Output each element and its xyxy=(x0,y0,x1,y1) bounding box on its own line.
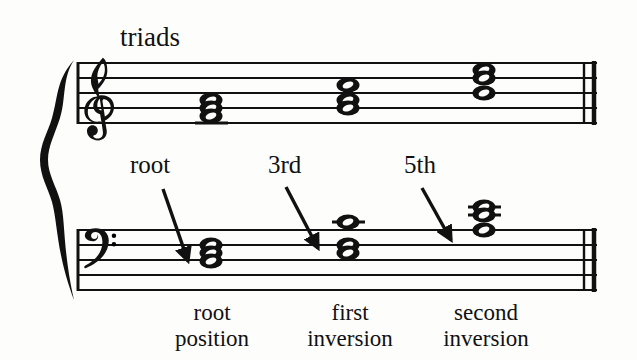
notehead xyxy=(337,100,360,115)
notehead xyxy=(337,77,360,92)
bass-staff xyxy=(77,229,597,291)
notehead xyxy=(473,70,496,85)
third-arrow xyxy=(286,187,318,248)
notehead xyxy=(473,85,496,100)
chord-root-position xyxy=(195,92,228,268)
bass-chord-1 xyxy=(200,237,223,268)
final-double-barline xyxy=(584,61,594,292)
grand-staff-brace xyxy=(40,60,74,300)
notehead xyxy=(473,207,496,222)
treble-clef xyxy=(84,58,114,141)
music-notation-figure: triads root 3rd 5th root position first … xyxy=(0,0,637,360)
treble-chord-2 xyxy=(337,77,360,115)
notehead xyxy=(200,108,223,123)
chord-first-inversion xyxy=(332,77,365,260)
fifth-arrow xyxy=(422,188,451,240)
notehead xyxy=(337,245,360,260)
notehead xyxy=(200,253,223,268)
notehead xyxy=(337,214,360,229)
root-arrow xyxy=(163,189,188,261)
chord-second-inversion xyxy=(468,62,501,237)
bass-clef xyxy=(84,228,116,268)
bass-chord-3 xyxy=(468,199,501,237)
treble-chord-3 xyxy=(473,62,496,100)
treble-staff xyxy=(77,62,597,124)
bass-chord-2 xyxy=(332,214,365,260)
notehead xyxy=(473,222,496,237)
staff-canvas xyxy=(0,0,637,360)
